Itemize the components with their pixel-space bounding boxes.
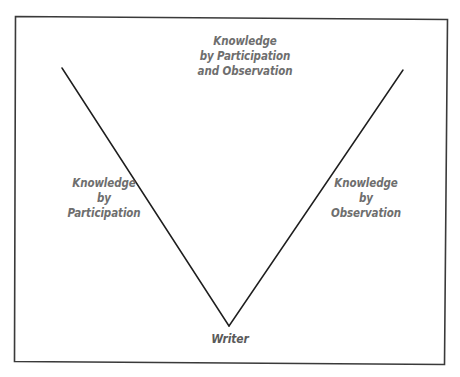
label-knowledge-by-observation: Knowledge by Observation (314, 176, 417, 221)
label-bottom-line-1: Writer (187, 331, 273, 346)
label-left-line-1: Knowledge (52, 176, 155, 191)
label-right-line-2: by (314, 191, 417, 206)
label-right-line-3: Observation (314, 206, 417, 221)
label-top-line-3: and Observation (181, 64, 310, 79)
label-left-line-3: Participation (52, 206, 155, 221)
label-right-line-1: Knowledge (314, 176, 417, 191)
label-writer: Writer (187, 331, 273, 346)
label-top-line-1: Knowledge (181, 34, 310, 49)
label-knowledge-by-participation: Knowledge by Participation (52, 176, 155, 221)
label-top-line-2: by Participation (181, 49, 310, 64)
label-left-line-2: by (52, 191, 155, 206)
label-knowledge-participation-observation: Knowledge by Participation and Observati… (181, 34, 310, 79)
